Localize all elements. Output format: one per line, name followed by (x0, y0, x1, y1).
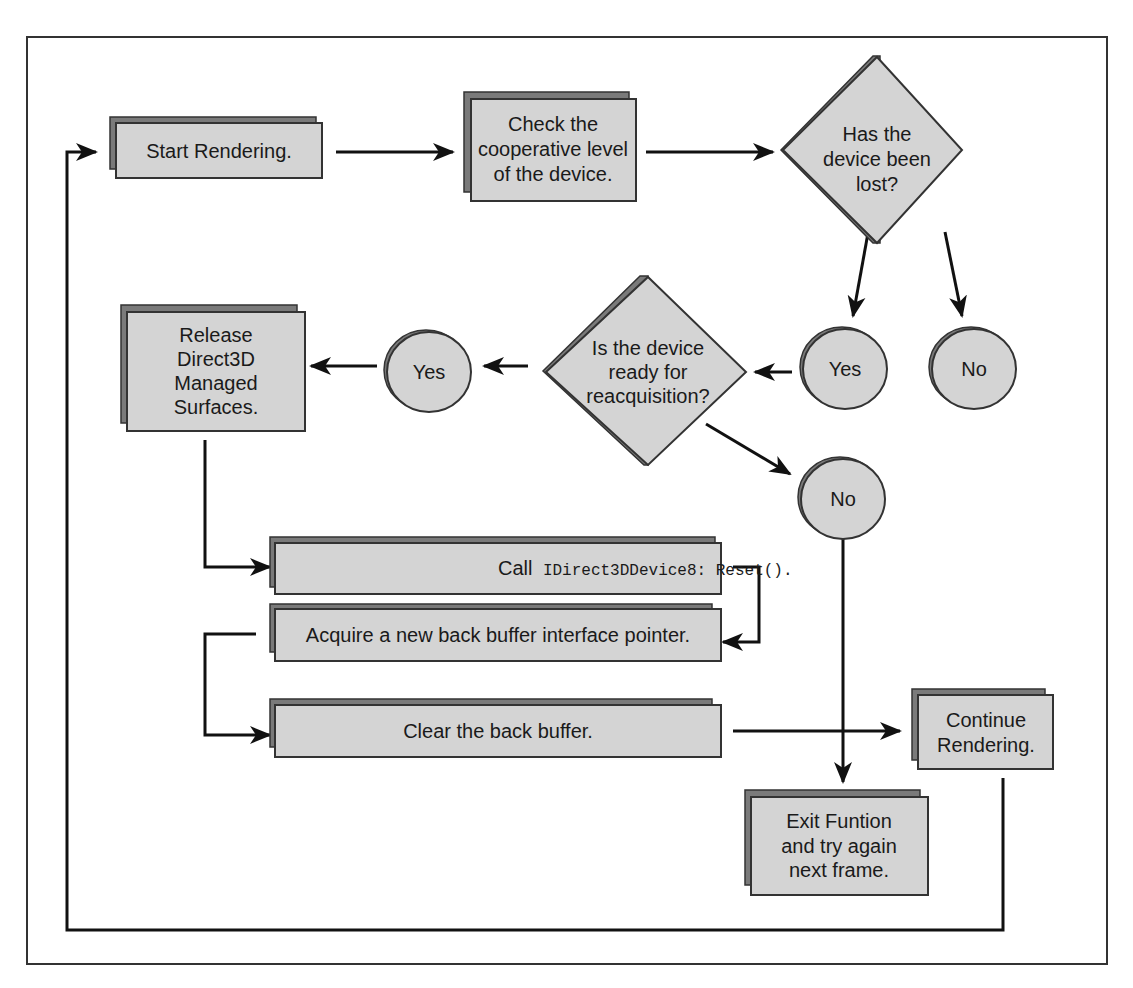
decision-ready-line-1: Is the device (592, 337, 704, 359)
node-clear-back-buffer: Clear the back buffer. (270, 699, 721, 757)
node-exit-line-1: Exit Funtion (786, 810, 892, 832)
node-start-label: Start Rendering. (146, 140, 292, 162)
circle-ready-no: No (798, 457, 885, 539)
arrow-ready-to-no (706, 424, 790, 474)
decision-ready-line-3: reacquisition? (586, 385, 709, 407)
node-reset-prefix: Call (498, 557, 532, 579)
node-check-cooperative-level: Check the cooperative level of the devic… (464, 92, 636, 201)
node-exit-line-3: next frame. (789, 859, 889, 881)
flowchart-canvas: Start Rendering. Check the cooperative l… (0, 0, 1133, 988)
node-exit-line-2: and try again (781, 835, 897, 857)
arrow-acquire-to-clear (205, 634, 270, 735)
node-start-rendering: Start Rendering. (110, 117, 322, 178)
circle-ready-yes-label: Yes (413, 361, 446, 383)
node-exit-function: Exit Funtion and try again next frame. (745, 790, 928, 895)
node-acquire-label: Acquire a new back buffer interface poin… (306, 624, 690, 646)
node-reset-code: IDirect3DDevice8: Reset(). (543, 562, 793, 580)
node-release-line-4: Surfaces. (174, 396, 258, 418)
arrow-lost-to-yes (853, 233, 868, 316)
decision-ready-line-2: ready for (609, 361, 688, 383)
decision-device-lost: Has the device been lost? (781, 56, 962, 243)
node-check-line-1: Check the (508, 113, 598, 135)
node-release-line-3: Managed (174, 372, 257, 394)
node-release-line-1: Release (179, 324, 252, 346)
decision-lost-line-2: device been (823, 148, 931, 170)
decision-ready-reacquisition: Is the device ready for reacquisition? (543, 276, 746, 465)
node-release-line-2: Direct3D (177, 348, 255, 370)
arrow-release-to-reset (205, 440, 270, 567)
node-check-line-2: cooperative level (478, 138, 628, 160)
node-release-surfaces: Release Direct3D Managed Surfaces. (121, 305, 305, 431)
circle-lost-yes: Yes (800, 327, 887, 409)
arrow-lost-to-no (945, 232, 962, 316)
decision-lost-line-3: lost? (856, 173, 898, 195)
decision-lost-line-1: Has the (843, 123, 912, 145)
circle-lost-no-label: No (961, 358, 987, 380)
node-check-line-3: of the device. (494, 163, 613, 185)
circle-ready-no-label: No (830, 488, 856, 510)
circle-lost-yes-label: Yes (829, 358, 862, 380)
node-acquire-back-buffer: Acquire a new back buffer interface poin… (270, 604, 721, 661)
node-continue-line-2: Rendering. (937, 734, 1035, 756)
circle-lost-no: No (929, 327, 1016, 409)
node-continue-rendering: Continue Rendering. (912, 689, 1053, 769)
circle-ready-yes: Yes (384, 330, 471, 412)
node-continue-line-1: Continue (946, 709, 1026, 731)
node-call-reset: Call IDirect3DDevice8: Reset(). (270, 537, 793, 594)
node-clear-label: Clear the back buffer. (403, 720, 593, 742)
